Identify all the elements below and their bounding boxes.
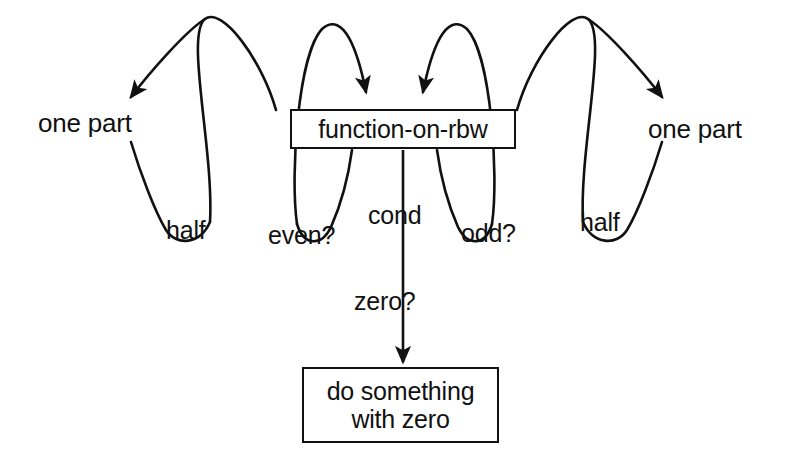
edge-label-zero: zero?: [354, 287, 416, 316]
diagram-canvas: one part function-on-rbw one part do som…: [0, 0, 795, 473]
edge-label-even: even?: [268, 221, 335, 250]
edge-label-half-left: half: [166, 216, 206, 245]
node-do-something-with-zero[interactable]: do something with zero: [302, 367, 499, 443]
edge-path-function-to-one-part-right: [588, 19, 662, 97]
edge-path-function-to-one-part-left: [131, 19, 205, 97]
edge-label-odd: odd?: [461, 219, 516, 248]
edge-path-half-right-loop: [517, 17, 595, 222]
node-do-something-with-zero-line1: do something: [327, 377, 475, 405]
node-one-part-left: one part: [38, 108, 132, 139]
edge-label-half-right: half: [580, 208, 620, 237]
node-do-something-with-zero-line2: with zero: [351, 405, 449, 433]
edge-path-half-left-loop: [198, 17, 276, 222]
node-function-on-rbw-label: function-on-rbw: [318, 115, 487, 143]
node-one-part-right: one part: [648, 114, 742, 145]
node-function-on-rbw[interactable]: function-on-rbw: [290, 109, 516, 149]
edge-label-cond: cond: [368, 201, 421, 230]
